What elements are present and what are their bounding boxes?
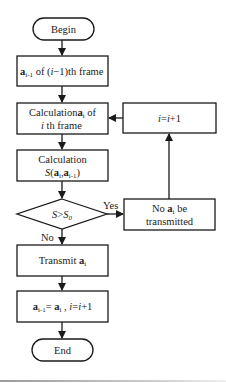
bottom-rule (0, 380, 226, 382)
calc-frame-box: Calculationai of i th frame (17, 103, 108, 134)
increment-label: i=i+1 (158, 113, 181, 124)
flowchart: Begin ai-1 of (i−1)th frame Calculationa… (0, 0, 226, 383)
no-label: No (41, 232, 54, 243)
end-terminal: End (32, 339, 93, 361)
prev-frame-box: ai-1 of (i−1)th frame (17, 56, 108, 86)
end-label: End (54, 345, 72, 356)
calc-frame-line2: i th frame (41, 120, 82, 131)
not-transmitted-box: No ai be transmitted (124, 199, 215, 230)
yes-label: Yes (103, 200, 118, 211)
increment-box: i=i+1 (123, 103, 216, 133)
calc-s-line1: Calculation (38, 154, 87, 165)
begin-terminal: Begin (33, 18, 94, 40)
assign-box: ai-1= ai , i=i+1 (17, 291, 108, 322)
begin-label: Begin (51, 24, 77, 35)
transmit-box: Transmit ai (17, 245, 108, 276)
not-transmitted-line2: transmitted (146, 216, 194, 227)
decision-diamond: S>S0 (17, 199, 107, 229)
calc-s-box: Calculation S(ai,ai-1) (17, 150, 108, 181)
